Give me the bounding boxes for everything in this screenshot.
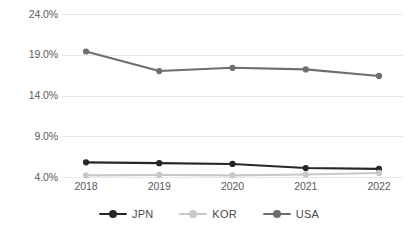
x-tick-label: 2019 (134, 180, 184, 193)
legend-marker-icon (99, 209, 127, 219)
data-point[interactable] (376, 73, 382, 79)
data-point[interactable] (83, 159, 89, 165)
data-point[interactable] (229, 172, 235, 178)
data-point[interactable] (83, 172, 89, 178)
data-point[interactable] (303, 66, 309, 72)
y-tick-label: 24.0% (6, 9, 58, 20)
data-point[interactable] (376, 170, 382, 176)
legend-label: JPN (132, 208, 153, 220)
x-tick-label: 2022 (354, 180, 404, 193)
plot-area (62, 14, 403, 177)
legend-item-usa[interactable]: USA (263, 208, 319, 220)
legend-marker-icon (179, 209, 207, 219)
data-point[interactable] (303, 165, 309, 171)
legend-marker-icon (263, 209, 291, 219)
y-tick-label: 9.0% (6, 131, 58, 142)
data-point[interactable] (156, 160, 162, 166)
series-line (86, 51, 379, 75)
line-chart: 24.0% 19.0% 14.0% 9.0% 4.0% 2018 2019 20… (0, 0, 418, 242)
x-tick-label: 2021 (281, 180, 331, 193)
y-tick-label: 4.0% (6, 172, 58, 183)
legend-label: USA (296, 208, 319, 220)
data-point[interactable] (83, 48, 89, 54)
series-layer (62, 14, 403, 177)
x-tick-label: 2020 (208, 180, 258, 193)
x-axis: 2018 2019 2020 2021 2022 (62, 180, 403, 196)
y-tick-label: 19.0% (6, 49, 58, 60)
data-point[interactable] (303, 171, 309, 177)
legend-item-kor[interactable]: KOR (179, 208, 236, 220)
y-tick-label: 14.0% (6, 90, 58, 101)
legend-item-jpn[interactable]: JPN (99, 208, 153, 220)
data-point[interactable] (229, 161, 235, 167)
data-point[interactable] (156, 68, 162, 74)
data-point[interactable] (229, 65, 235, 71)
x-tick-label: 2018 (61, 180, 111, 193)
chart-legend: JPN KOR USA (0, 205, 418, 223)
data-point[interactable] (156, 172, 162, 178)
legend-label: KOR (212, 208, 236, 220)
